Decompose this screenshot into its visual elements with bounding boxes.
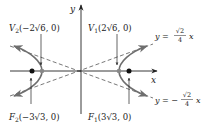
vertex-v2-point [40,69,45,74]
hyperbola-right-branch-lower [119,71,147,96]
svg-text:4: 4 [185,100,189,108]
svg-text:4: 4 [178,36,182,44]
hyperbola-left-branch-upper [14,46,42,71]
asymptote-positive-label: y = √2 4 x [154,27,194,44]
hyperbola-left-branch-lower [14,71,42,96]
svg-text:y =: y = [154,32,169,41]
v1-label: V1(2√6, 0) [88,23,132,34]
asymptote-negative-label: y = − √2 4 x [154,91,201,108]
focus-f1-point [127,69,132,74]
svg-text:√2: √2 [176,27,184,35]
svg-text:x: x [189,32,194,41]
v2-label: V2(−2√6, 0) [9,23,60,34]
x-axis-label: x [151,75,156,85]
svg-text:√2: √2 [183,91,191,99]
f2-label: F2(−3√3, 0) [8,112,60,123]
y-axis-label: y [69,4,76,14]
focus-f2-point [30,69,35,74]
hyperbola-diagram: y x V2(−2√6, 0) V1(2√6, 0) F2(−3√3, 0) F… [0,0,207,127]
hyperbola-right-branch-upper [119,46,147,71]
f1-label: F1(3√3, 0) [87,112,131,123]
vertex-v1-point [117,69,122,74]
svg-text:y = −: y = − [154,96,178,105]
svg-text:x: x [196,96,201,105]
